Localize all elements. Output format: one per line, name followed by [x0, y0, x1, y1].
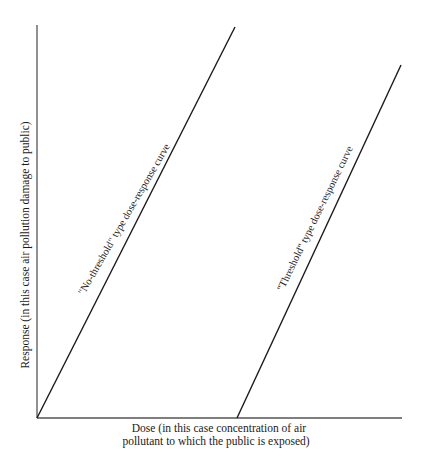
y-axis-label: Response (in this case air pollution dam… — [19, 121, 32, 368]
dose-response-chart: Response (in this case air pollution dam… — [0, 0, 424, 464]
threshold-curve — [237, 65, 401, 418]
no-threshold-curve — [37, 27, 235, 418]
threshold-curve-label: "Threshold" type dose-response curve — [275, 144, 355, 293]
no-threshold-curve-label: "No-threshold" type dose-response curve — [76, 141, 172, 296]
x-axis-label-line2: pollutant to which the public is exposed… — [122, 435, 309, 448]
x-axis-label-line1: Dose (in this case concentration of air — [132, 422, 307, 435]
